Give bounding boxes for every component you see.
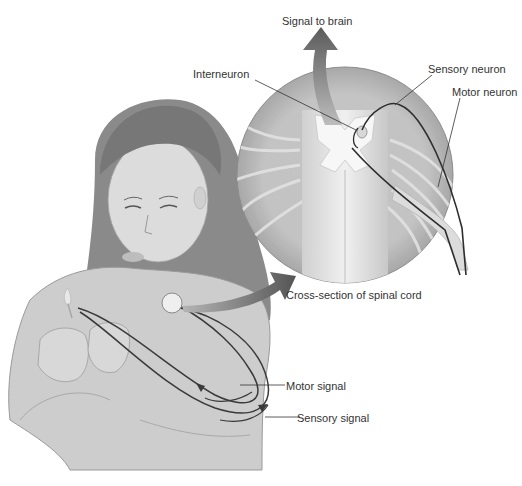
spinal-cord-cross-section bbox=[235, 67, 468, 290]
stimulus-point bbox=[162, 293, 182, 313]
label-motor-signal: Motor signal bbox=[286, 380, 346, 392]
label-motor-neuron: Motor neuron bbox=[452, 86, 517, 98]
label-signal-to-brain: Signal to brain bbox=[282, 15, 352, 27]
label-sensory-signal: Sensory signal bbox=[297, 412, 369, 424]
label-sensory-neuron: Sensory neuron bbox=[428, 63, 506, 75]
label-cross-section: Cross-section of spinal cord bbox=[286, 289, 422, 301]
girl-figure bbox=[9, 99, 271, 470]
reflex-arc-diagram: Signal to brain Interneuron Sensory neur… bbox=[0, 0, 522, 486]
label-interneuron: Interneuron bbox=[193, 68, 249, 80]
